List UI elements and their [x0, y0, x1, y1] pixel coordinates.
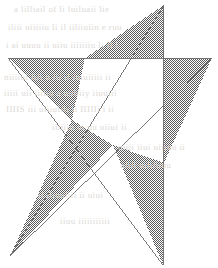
point-bottom-right-region	[113, 145, 164, 265]
pentagram-figure	[0, 0, 218, 268]
point-right-region	[164, 58, 212, 163]
figure-canvas: a lilliail of li luiluaii lie iliii uiii…	[0, 0, 218, 268]
point-bottom-left-region	[10, 120, 113, 256]
point-top-region	[85, 5, 164, 58]
point-left-region	[8, 58, 85, 120]
